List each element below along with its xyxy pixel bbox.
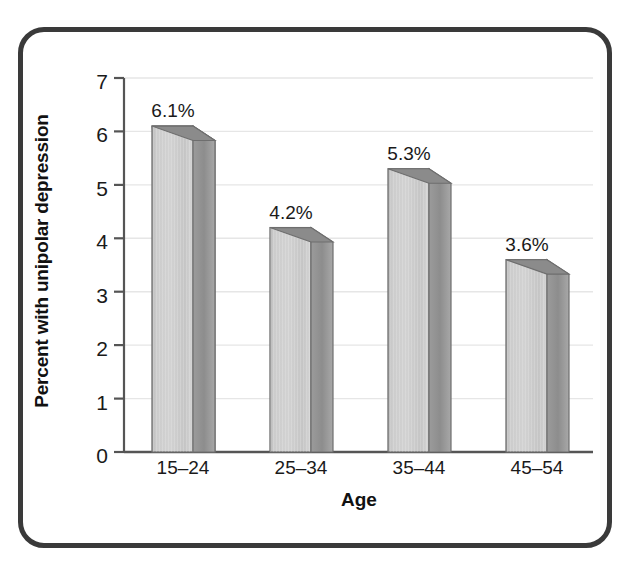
- y-tick-label-6: 6: [82, 124, 108, 145]
- y-tick-label-0: 0: [82, 445, 108, 466]
- bar-value-label-35-44: 5.3%: [364, 144, 454, 163]
- x-tick-label-15-24: 15–24: [128, 458, 238, 477]
- y-axis: [114, 78, 124, 452]
- bar-value-label-45-54: 3.6%: [482, 235, 572, 254]
- y-tick-label-3: 3: [82, 285, 108, 306]
- y-tick-label-7: 7: [82, 71, 108, 92]
- y-tick-label-5: 5: [82, 178, 108, 199]
- bar-value-label-15-24: 6.1%: [128, 101, 218, 120]
- bar-15-24[interactable]: [152, 126, 215, 452]
- bar-45-54[interactable]: [506, 260, 569, 452]
- x-axis-title: Age: [124, 489, 594, 511]
- y-tick-label-2: 2: [82, 338, 108, 359]
- y-axis-title: Percent with unipolar depression: [31, 111, 53, 411]
- x-tick-label-25-34: 25–34: [246, 458, 356, 477]
- x-tick-label-35-44: 35–44: [364, 458, 474, 477]
- bar-25-34[interactable]: [270, 228, 333, 452]
- x-tick-label-45-54: 45–54: [482, 458, 592, 477]
- y-tick-label-1: 1: [82, 392, 108, 413]
- bar-35-44[interactable]: [388, 169, 451, 452]
- y-tick-label-4: 4: [82, 231, 108, 252]
- bar-value-label-25-34: 4.2%: [246, 203, 336, 222]
